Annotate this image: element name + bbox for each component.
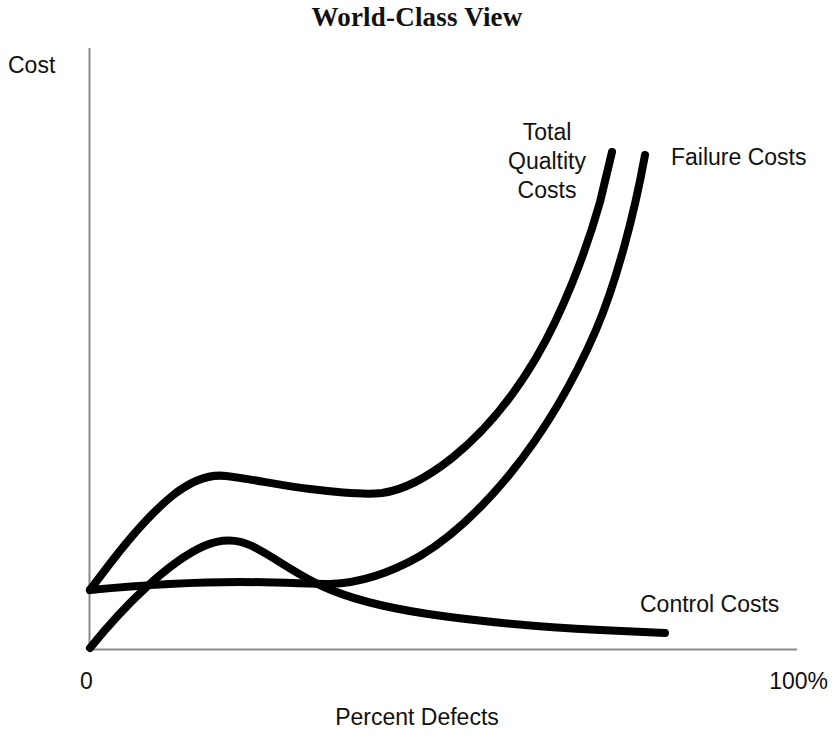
series-label-failure-costs: Failure Costs xyxy=(671,143,806,172)
series-line-total-quality-costs xyxy=(90,152,612,590)
series-label-control-costs: Control Costs xyxy=(640,590,779,619)
y-axis-label: Cost xyxy=(8,52,55,79)
plot-area xyxy=(0,0,834,743)
series-line-failure-costs xyxy=(90,155,645,590)
series-label-total-quality-costs: Total Qualtity Costs xyxy=(499,118,595,205)
x-axis-tick-left: 0 xyxy=(80,668,93,695)
x-axis-tick-right: 100% xyxy=(769,668,828,695)
series-line-control-costs xyxy=(90,540,665,648)
x-axis-label: Percent Defects xyxy=(0,704,834,731)
chart-figure: World-Class View Cost Percent Defects 0 … xyxy=(0,0,834,743)
